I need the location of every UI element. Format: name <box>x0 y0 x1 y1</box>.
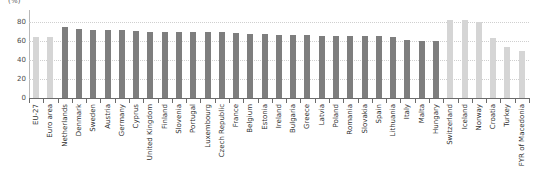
bar-slot <box>72 10 86 98</box>
bar-slot <box>172 10 186 98</box>
x-tick-label: Netherlands <box>61 104 68 147</box>
bar <box>462 20 468 98</box>
bar-slot <box>215 10 229 98</box>
bar <box>319 36 325 98</box>
x-tick <box>529 98 530 103</box>
bar-slot <box>29 10 43 98</box>
bar-slot <box>486 10 500 98</box>
x-tick-label: Hungary <box>433 104 440 134</box>
x-tick <box>186 98 187 103</box>
x-tick-label: Euro area <box>47 104 54 138</box>
bar <box>347 36 353 98</box>
y-tick-label-20: 20 <box>2 75 26 83</box>
bar <box>362 36 368 98</box>
x-label-slot: United Kingdom <box>143 104 157 182</box>
x-tick <box>343 98 344 103</box>
bar <box>233 33 239 98</box>
bar <box>119 30 125 98</box>
x-label-slot: Austria <box>100 104 114 182</box>
x-tick-label: Slovakia <box>361 104 368 133</box>
x-tick-label: United Kingdom <box>147 104 154 160</box>
x-label-slot: Netherlands <box>58 104 72 182</box>
x-label-slot: Belgium <box>243 104 257 182</box>
x-label-slot: Croatia <box>486 104 500 182</box>
x-label-slot: Portugal <box>186 104 200 182</box>
bar-slot <box>258 10 272 98</box>
x-tick-label: Germany <box>118 104 125 136</box>
bar-slot <box>315 10 329 98</box>
x-label-slot: Hungary <box>429 104 443 182</box>
x-label-slot: Cyprus <box>129 104 143 182</box>
x-tick-label: Iceland <box>461 104 468 129</box>
x-tick <box>358 98 359 103</box>
y-tick-label-0: 0 <box>2 94 26 102</box>
bar-slot <box>329 10 343 98</box>
x-label-slot: EU-27 <box>29 104 43 182</box>
bar-slot <box>286 10 300 98</box>
x-tick-label: Italy <box>404 104 411 119</box>
x-tick-label: Cyprus <box>133 104 140 128</box>
bar <box>447 20 453 98</box>
x-tick <box>486 98 487 103</box>
x-tick <box>243 98 244 103</box>
x-tick-label: Estonia <box>261 104 268 130</box>
bar <box>490 38 496 98</box>
bar-slot <box>300 10 314 98</box>
x-label-slot: Italy <box>400 104 414 182</box>
bar-slot <box>243 10 257 98</box>
x-label-slot: Iceland <box>457 104 471 182</box>
bar-series <box>29 10 529 98</box>
y-tick-label-60: 60 <box>2 37 26 45</box>
bar <box>176 32 182 99</box>
bar <box>404 40 410 98</box>
bar <box>376 36 382 98</box>
bar-slot <box>372 10 386 98</box>
x-label-slot: FYR of Macedonia <box>515 104 529 182</box>
x-label-slot: Romania <box>343 104 357 182</box>
bar-slot <box>86 10 100 98</box>
bar <box>162 32 168 99</box>
bar-slot <box>158 10 172 98</box>
x-tick-label: EU-27 <box>33 104 40 125</box>
bar <box>333 36 339 98</box>
bar <box>47 37 53 98</box>
x-tick-labels: EU-27Euro areaNetherlandsDenmarkSwedenAu… <box>29 104 529 182</box>
bar <box>247 34 253 98</box>
bar-slot <box>443 10 457 98</box>
bar <box>90 30 96 98</box>
x-tick <box>215 98 216 103</box>
bar-slot <box>500 10 514 98</box>
x-label-slot: Bulgaria <box>286 104 300 182</box>
bar-slot <box>343 10 357 98</box>
x-tick <box>143 98 144 103</box>
unit-label: (%) <box>8 0 21 5</box>
bar <box>390 37 396 98</box>
x-tick-label: Poland <box>333 104 340 127</box>
x-tick <box>29 98 30 103</box>
bar-slot <box>472 10 486 98</box>
x-tick-label: Slovenia <box>175 104 182 134</box>
x-tick <box>429 98 430 103</box>
x-tick-label: Ireland <box>275 104 282 128</box>
bar <box>519 51 525 99</box>
x-tick-label: Finland <box>161 104 168 129</box>
x-tick-label: Spain <box>375 104 382 124</box>
x-label-slot: Spain <box>372 104 386 182</box>
bar <box>433 41 439 98</box>
x-tick <box>58 98 59 103</box>
x-label-slot: Luxembourg <box>200 104 214 182</box>
x-label-slot: Denmark <box>72 104 86 182</box>
bar <box>33 37 39 98</box>
x-tick <box>500 98 501 103</box>
x-label-slot: Estonia <box>258 104 272 182</box>
x-tick <box>258 98 259 103</box>
x-tick-label: Turkey <box>504 104 511 127</box>
x-label-slot: Slovakia <box>357 104 371 182</box>
x-tick-label: Latvia <box>318 104 325 125</box>
bar-slot <box>457 10 471 98</box>
x-tick <box>100 98 101 103</box>
x-label-slot: Greece <box>300 104 314 182</box>
x-tick-label: France <box>233 104 240 127</box>
plot-area <box>29 10 529 98</box>
x-tick <box>329 98 330 103</box>
